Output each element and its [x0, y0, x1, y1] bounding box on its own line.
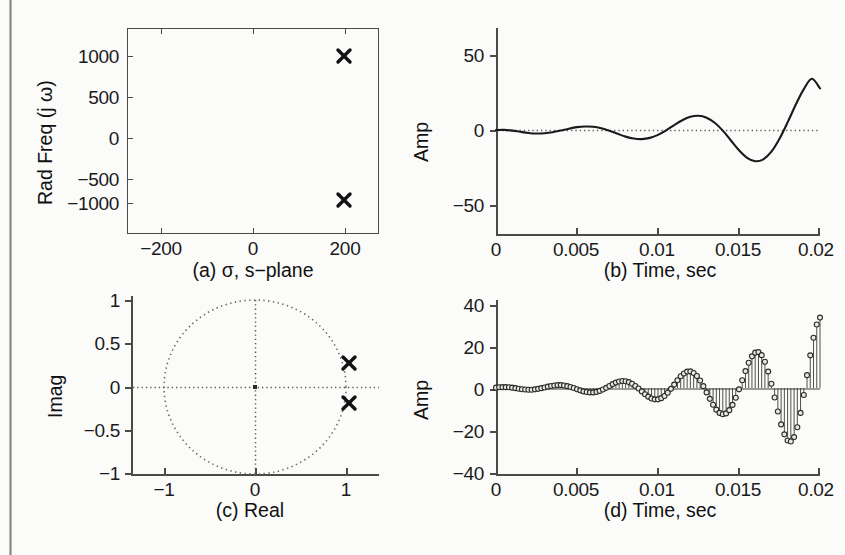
stem-marker — [704, 390, 709, 395]
stem-marker — [775, 409, 780, 414]
stem-marker — [808, 353, 813, 358]
stem-marker — [779, 422, 784, 427]
stem-marker — [743, 369, 748, 374]
stem-marker — [792, 435, 797, 440]
stem-marker — [737, 387, 742, 392]
stem-marker — [814, 322, 819, 327]
stem-marker — [805, 373, 810, 378]
stem-marker — [782, 432, 787, 437]
stem-marker — [801, 392, 806, 397]
stem-markers-group — [494, 315, 823, 444]
stem-marker — [701, 384, 706, 389]
stem-marker — [730, 402, 735, 407]
stem-lines-group — [496, 318, 820, 442]
stem-marker — [772, 395, 777, 400]
stem-marker — [727, 408, 732, 413]
stem-marker — [707, 396, 712, 401]
panel-d-plot-area — [0, 0, 845, 555]
stem-marker — [733, 395, 738, 400]
stem-marker — [798, 410, 803, 415]
stem-marker — [711, 402, 716, 407]
stem-marker — [759, 353, 764, 358]
stem-marker — [795, 425, 800, 430]
stem-marker — [769, 381, 774, 386]
stem-marker — [694, 373, 699, 378]
stem-marker — [766, 369, 771, 374]
stem-marker — [740, 378, 745, 383]
stem-marker — [698, 378, 703, 383]
figure-page: 1000 500 0 −500 −1000 −200 0 200 Rad Fre… — [0, 0, 845, 555]
stem-marker — [746, 360, 751, 365]
stem-marker — [762, 359, 767, 364]
stem-marker — [818, 315, 823, 320]
stem-marker — [811, 335, 816, 340]
